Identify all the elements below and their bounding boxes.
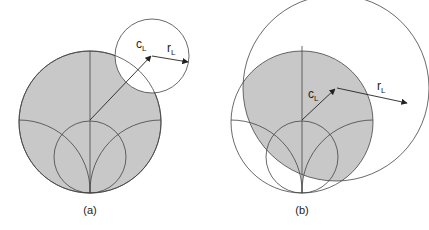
caption-a: (a) (83, 204, 96, 216)
stable-region-b (243, 0, 429, 181)
panel-b: cL rL (b) (231, 0, 429, 216)
radius-label-b: rL (377, 79, 386, 95)
stability-circles-figure: cL rL (a) cL rL (b) (0, 0, 429, 230)
caption-b: (b) (295, 204, 308, 216)
panel-a: cL rL (a) (19, 19, 189, 216)
